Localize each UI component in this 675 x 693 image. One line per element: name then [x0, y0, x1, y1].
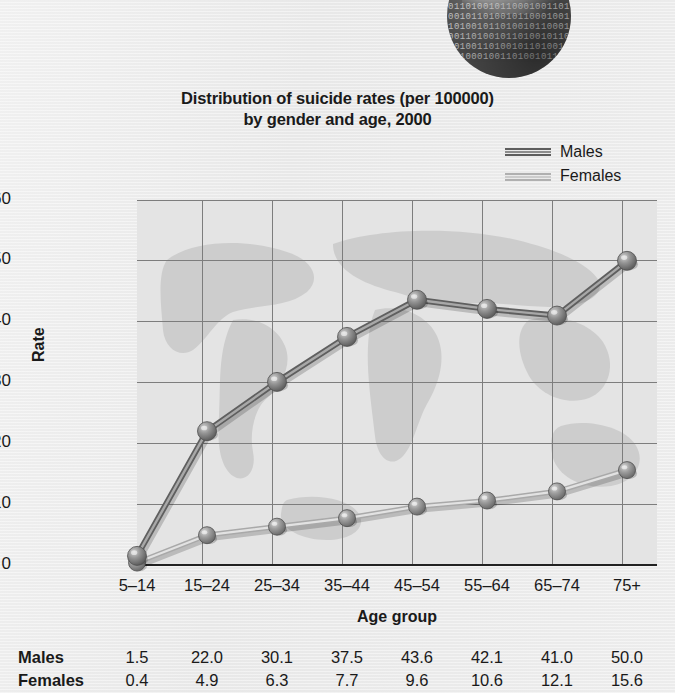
- ytick-30: 30: [0, 371, 11, 391]
- cell-males-2: 30.1: [245, 648, 309, 667]
- cell-females-1: 4.9: [175, 671, 239, 690]
- xtick-2: 25–34: [254, 576, 300, 595]
- xtick-7: 75+: [613, 576, 641, 595]
- cell-males-3: 37.5: [315, 648, 379, 667]
- legend-label-males: Males: [560, 143, 603, 161]
- ytick-20: 20: [0, 432, 11, 452]
- ytick-0: 0: [0, 554, 11, 574]
- legend-swatch-males-icon: [505, 148, 551, 157]
- cell-females-3: 7.7: [315, 671, 379, 690]
- legend-item-females: Females: [505, 164, 621, 188]
- xtick-4: 45–54: [394, 576, 440, 595]
- cell-females-0: 0.4: [105, 671, 169, 690]
- title-line-1: Distribution of suicide rates (per 10000…: [0, 88, 675, 109]
- series-lines: [137, 200, 657, 565]
- xtick-0: 5–14: [119, 576, 156, 595]
- ytick-60: 60: [0, 189, 11, 209]
- cell-males-0: 1.5: [105, 648, 169, 667]
- legend-item-males: Males: [505, 140, 621, 164]
- cell-females-5: 10.6: [455, 671, 519, 690]
- cell-males-4: 43.6: [385, 648, 449, 667]
- table-row-label-females: Females: [18, 671, 84, 690]
- cell-males-7: 50.0: [595, 648, 659, 667]
- xtick-5: 55–64: [464, 576, 510, 595]
- binary-globe-image: 0110100101100010011010010110100101100010…: [447, 0, 571, 78]
- y-axis-label: Rate: [30, 327, 48, 362]
- globe-shading: [447, 0, 571, 78]
- table-row-label-males: Males: [18, 648, 64, 667]
- ytick-40: 40: [0, 310, 11, 330]
- xtick-3: 35–44: [324, 576, 370, 595]
- chart-title: Distribution of suicide rates (per 10000…: [0, 88, 675, 130]
- cell-females-4: 9.6: [385, 671, 449, 690]
- legend-swatch-females-icon: [505, 172, 551, 181]
- cell-males-1: 22.0: [175, 648, 239, 667]
- xtick-1: 15–24: [184, 576, 230, 595]
- table-row: Males 1.5 22.0 30.1 37.5 43.6 42.1 41.0 …: [0, 648, 675, 671]
- xtick-6: 65–74: [534, 576, 580, 595]
- table-row: Females 0.4 4.9 6.3 7.7 9.6 10.6 12.1 15…: [0, 671, 675, 693]
- x-axis-label: Age group: [137, 608, 657, 626]
- chart-legend: Males Females: [505, 140, 621, 188]
- cell-males-5: 42.1: [455, 648, 519, 667]
- legend-label-females: Females: [560, 167, 621, 185]
- cell-females-2: 6.3: [245, 671, 309, 690]
- data-table: Males 1.5 22.0 30.1 37.5 43.6 42.1 41.0 …: [0, 648, 675, 693]
- ytick-50: 50: [0, 249, 11, 269]
- title-line-2: by gender and age, 2000: [0, 109, 675, 130]
- ytick-10: 10: [0, 493, 11, 513]
- cell-females-7: 15.6: [595, 671, 659, 690]
- cell-males-6: 41.0: [525, 648, 589, 667]
- cell-females-6: 12.1: [525, 671, 589, 690]
- plot-area: [137, 200, 657, 565]
